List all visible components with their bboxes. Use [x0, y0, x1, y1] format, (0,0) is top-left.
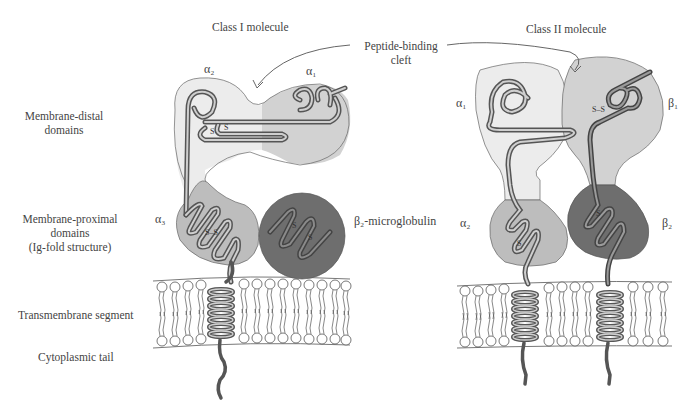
- cleft-label-line2: cleft: [356, 53, 446, 67]
- peptide-binding-cleft-label: Peptide-binding cleft: [356, 39, 446, 67]
- class2-title: Class II molecule: [526, 22, 606, 36]
- cleft-label-line1: Peptide-binding: [356, 39, 446, 53]
- svg-text:S: S: [596, 209, 600, 218]
- mhc-diagram: SS S–S SS S–S S S: [0, 0, 699, 410]
- class1-membrane: [153, 277, 351, 348]
- beta2-microglobulin-domain: [259, 193, 345, 279]
- class1-molecule: [153, 78, 351, 398]
- proximal-line3: (Ig-fold structure): [14, 240, 126, 254]
- class2-molecule: [457, 57, 672, 384]
- class1-title: Class I molecule: [212, 20, 289, 34]
- b2m-label: β₂-microglobulin: [354, 214, 436, 229]
- svg-text:S: S: [210, 127, 214, 136]
- class2-membrane: [457, 282, 672, 349]
- class2-beta1-label: β₁: [668, 96, 678, 111]
- transmembrane-label: Transmembrane segment: [18, 308, 134, 322]
- class2-alpha1-label: α₁: [456, 96, 466, 111]
- beta1-domain: [562, 57, 664, 185]
- proximal-line1: Membrane-proximal: [14, 212, 126, 226]
- svg-text:S: S: [224, 123, 228, 132]
- distal-line1: Membrane-distal: [14, 109, 114, 123]
- distal-line2: domains: [14, 123, 114, 137]
- class1-alpha1-label: α₁: [306, 64, 316, 79]
- svg-text:S: S: [517, 239, 521, 248]
- membrane-distal-label: Membrane-distal domains: [14, 109, 114, 137]
- svg-text:S: S: [308, 233, 312, 242]
- svg-text:S–S: S–S: [205, 228, 218, 237]
- svg-text:S: S: [292, 221, 296, 230]
- class1-alpha2-label: α₂: [204, 62, 214, 77]
- cytoplasmic-label: Cytoplasmic tail: [38, 350, 114, 364]
- membrane-proximal-label: Membrane-proximal domains (Ig-fold struc…: [14, 212, 126, 254]
- class2-alpha2-label: α₂: [460, 216, 470, 231]
- proximal-line2: domains: [14, 226, 126, 240]
- svg-text:S–S: S–S: [592, 105, 605, 114]
- class1-alpha3-label: α₃: [155, 212, 165, 227]
- class2-beta2-label: β₂: [662, 216, 672, 231]
